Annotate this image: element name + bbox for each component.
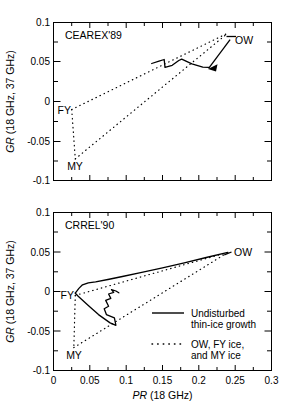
y-tick-label: -0.1 <box>33 365 51 376</box>
annotation-ow-top: OW <box>235 34 253 46</box>
x-tick-label: 0.05 <box>80 375 100 386</box>
legend-label-solid-line2: thin-ice growth <box>191 319 256 330</box>
y-tick-label: 0.1 <box>36 207 50 218</box>
x-tick-labels-bottom: 0 0.05 0.1 0.15 0.2 0.25 0.3 <box>51 375 279 386</box>
annotation-my-bottom: MY <box>66 349 82 361</box>
y-tick-label: -0.1 <box>33 175 51 186</box>
y-tick-label: 0.05 <box>31 56 51 67</box>
y-tick-labels-top: 0.1 0.05 0 -0.05 -0.1 <box>27 17 50 186</box>
annotation-fy-top: FY <box>58 104 71 116</box>
x-tick-label: 0.2 <box>192 375 206 386</box>
y-axis-title-top: GR (18 GHz, 37 GHz) <box>4 50 16 153</box>
y-tick-labels-bottom: 0.1 0.05 0 -0.05 -0.1 <box>27 207 50 376</box>
annotation-ow-bottom: OW <box>234 246 252 258</box>
plot-frame-top <box>54 23 272 181</box>
y-tick-label: 0.05 <box>31 247 51 258</box>
figure-root: 0.1 0.05 0 -0.05 -0.1 GR (18 GHz, 37 GHz… <box>0 0 289 416</box>
annotation-my-top: MY <box>67 160 83 172</box>
y-tick-label: -0.05 <box>27 326 50 337</box>
y-tick-label: -0.05 <box>27 136 50 147</box>
x-axis-title-bottom: PR (18 GHz) <box>132 389 192 401</box>
y-axis-title-text: GR (18 GHz, 37 GHz) <box>4 240 16 343</box>
x-tick-label: 0.3 <box>265 375 279 386</box>
y-axis-title-bottom: GR (18 GHz, 37 GHz) <box>4 240 16 343</box>
annotation-fy-bottom: FY <box>61 289 74 301</box>
panel-title-top: CEAREX'89 <box>65 29 122 41</box>
x-tick-label: 0.15 <box>153 375 173 386</box>
panel-title-bottom: CRREL'90 <box>65 219 114 231</box>
panel-bottom: 0.1 0.05 0 -0.05 -0.1 0 0.05 0.1 0.15 0.… <box>4 207 279 401</box>
x-tick-label: 0 <box>51 375 57 386</box>
legend-label-dotted-line1: OW, FY ice, <box>191 339 244 350</box>
y-axis-title-text: GR (18 GHz, 37 GHz) <box>4 50 16 153</box>
y-tick-label: 0 <box>44 96 50 107</box>
x-tick-label: 0.1 <box>119 375 133 386</box>
y-tick-label: 0 <box>44 286 50 297</box>
x-tick-label: 0.25 <box>225 375 245 386</box>
legend-label-dotted-line2: and MY ice <box>191 350 241 361</box>
y-tick-label: 0.1 <box>36 17 50 28</box>
panel-top: 0.1 0.05 0 -0.05 -0.1 GR (18 GHz, 37 GHz… <box>4 17 272 186</box>
legend-label-solid-line1: Undisturbed <box>191 308 245 319</box>
